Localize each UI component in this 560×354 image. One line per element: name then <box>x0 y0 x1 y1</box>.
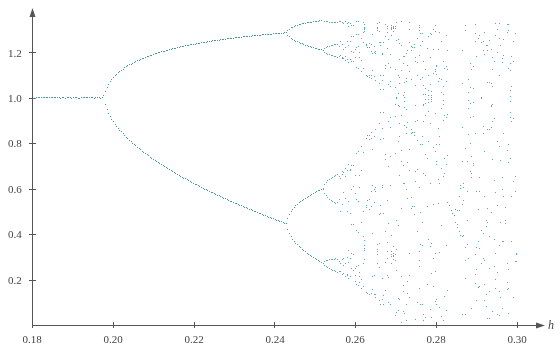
x-tick-label: 0.24 <box>265 333 284 345</box>
x-axis-title: h <box>548 318 554 333</box>
y-tick-label: 1.0 <box>8 92 22 104</box>
x-tick-label: 0.26 <box>345 333 364 345</box>
x-tick-label: 0.18 <box>22 333 41 345</box>
y-tick-label: 0.8 <box>8 137 22 149</box>
x-tick-label: 0.20 <box>103 333 122 345</box>
y-tick-label: 0.2 <box>8 274 22 286</box>
x-tick-label: 0.30 <box>507 333 526 345</box>
y-tick-label: 0.4 <box>8 228 22 240</box>
y-tick-label: 0.6 <box>8 183 22 195</box>
x-tick-label: 0.22 <box>184 333 203 345</box>
x-tick-label: 0.28 <box>426 333 445 345</box>
bifurcation-plot <box>0 0 560 354</box>
y-tick-label: 1.2 <box>8 47 22 59</box>
